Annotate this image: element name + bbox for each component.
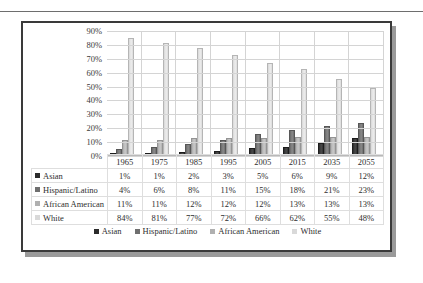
table-row: Asian1%1%2%3%5%6%9%12%	[32, 169, 384, 183]
y-axis-tick-label: 90%	[32, 27, 102, 35]
chart-legend: AsianHispanic/LatinoAfrican AmericanWhit…	[31, 226, 384, 236]
table-cell: 62%	[280, 211, 315, 225]
chart-inner: 90%80%70%60%50%40%30%20%10%0% 1965197519…	[23, 23, 390, 250]
table-cell: 6%	[142, 183, 177, 197]
bar-group	[176, 31, 211, 155]
table-column-header: 1965	[108, 155, 143, 169]
table-cell: 12%	[246, 197, 281, 211]
table-cell: 13%	[280, 197, 315, 211]
table-row: Hispanic/Latino4%6%8%11%15%18%21%23%	[32, 183, 384, 197]
table-cell: 11%	[211, 183, 246, 197]
legend-item[interactable]: African American	[210, 226, 279, 236]
gridline	[107, 128, 384, 129]
bar[interactable]	[370, 88, 376, 155]
gridline	[107, 87, 384, 88]
bar-group	[246, 31, 281, 155]
y-axis-tick-label: 60%	[32, 69, 102, 77]
gridline	[107, 45, 384, 46]
table-column-header: 2015	[280, 155, 315, 169]
table-cell: 6%	[280, 169, 315, 183]
y-axis-tick-label: 10%	[32, 138, 102, 146]
table-cell: 12%	[211, 197, 246, 211]
table-cell: 3%	[211, 169, 246, 183]
table-cell: 48%	[349, 211, 384, 225]
legend-item[interactable]: Hispanic/Latino	[135, 226, 198, 236]
gridline	[107, 114, 384, 115]
bar-group	[107, 31, 142, 155]
page-root: 90%80%70%60%50%40%30%20%10%0% 1965197519…	[0, 0, 423, 283]
legend-label: Hispanic/Latino	[143, 226, 198, 236]
bar-group	[349, 31, 384, 155]
series-name: White	[43, 213, 64, 223]
series-name: African American	[43, 199, 104, 209]
table-cell: 9%	[315, 169, 350, 183]
bar[interactable]	[336, 79, 342, 155]
bar-groups	[107, 31, 384, 155]
table-cell: 5%	[246, 169, 281, 183]
table-column-header: 1995	[211, 155, 246, 169]
table-cell: 66%	[246, 211, 281, 225]
table-column-header: 2035	[315, 155, 350, 169]
table-row-label: Asian	[32, 169, 108, 183]
table-row: White84%81%77%72%66%62%55%48%	[32, 211, 384, 225]
bar-group	[280, 31, 315, 155]
table-cell: 72%	[211, 211, 246, 225]
plot-area: 90%80%70%60%50%40%30%20%10%0%	[31, 31, 384, 156]
table-cell: 55%	[315, 211, 350, 225]
table-cell: 18%	[280, 183, 315, 197]
table-cell: 8%	[177, 183, 212, 197]
table-cell: 84%	[108, 211, 143, 225]
table-cell: 11%	[142, 197, 177, 211]
table-row-label: White	[32, 211, 108, 225]
bar[interactable]	[197, 48, 203, 155]
series-swatch-icon	[35, 201, 40, 206]
table-column-header: 1975	[142, 155, 177, 169]
legend-label: Asian	[102, 226, 122, 236]
chart-frame: 90%80%70%60%50%40%30%20%10%0% 1965197519…	[21, 21, 392, 252]
table-header-row: 19651975198519952005201520352055	[32, 155, 384, 169]
gridline	[107, 59, 384, 60]
table-cell: 23%	[349, 183, 384, 197]
y-axis-tick-label: 30%	[32, 110, 102, 118]
series-name: Asian	[43, 171, 63, 181]
legend-swatch-icon	[94, 229, 99, 234]
bar-group	[142, 31, 177, 155]
bar-group	[211, 31, 246, 155]
gridline	[107, 100, 384, 101]
y-axis-tick-label: 50%	[32, 83, 102, 91]
table-row: African American11%11%12%12%12%13%13%13%	[32, 197, 384, 211]
table-cell: 13%	[315, 197, 350, 211]
gridline	[107, 73, 384, 74]
series-swatch-icon	[35, 215, 40, 220]
table-cell: 15%	[246, 183, 281, 197]
table-cell: 11%	[108, 197, 143, 211]
y-axis-labels: 90%80%70%60%50%40%30%20%10%0%	[31, 31, 105, 156]
legend-item[interactable]: Asian	[94, 226, 122, 236]
y-axis-tick-label: 20%	[32, 124, 102, 132]
table-corner-cell	[32, 155, 108, 169]
legend-label: African American	[218, 226, 279, 236]
y-axis-tick-label: 40%	[32, 96, 102, 104]
table-cell: 12%	[349, 169, 384, 183]
bar[interactable]	[128, 38, 134, 155]
table-column-header: 2005	[246, 155, 281, 169]
data-table: 19651975198519952005201520352055Asian1%1…	[31, 154, 384, 225]
gridline	[107, 142, 384, 143]
legend-swatch-icon	[292, 229, 297, 234]
legend-swatch-icon	[135, 229, 140, 234]
table-cell: 1%	[108, 169, 143, 183]
bar[interactable]	[232, 55, 238, 155]
table-cell: 13%	[349, 197, 384, 211]
table-row-label: Hispanic/Latino	[32, 183, 108, 197]
gridline	[107, 31, 384, 32]
legend-swatch-icon	[210, 229, 215, 234]
table-column-header: 2055	[349, 155, 384, 169]
table-cell: 21%	[315, 183, 350, 197]
table-cell: 12%	[177, 197, 212, 211]
legend-item[interactable]: White	[292, 226, 321, 236]
series-name: Hispanic/Latino	[43, 185, 98, 195]
table-cell: 4%	[108, 183, 143, 197]
page-top-rule	[0, 11, 423, 12]
plot-canvas	[107, 31, 384, 156]
legend-label: White	[300, 226, 321, 236]
